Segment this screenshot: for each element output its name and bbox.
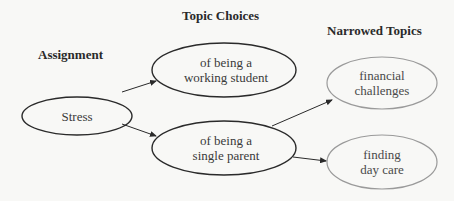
node-single-parent-label: of being a single parent bbox=[193, 133, 260, 163]
node-finding-day-care-line1: finding bbox=[360, 147, 404, 162]
node-financial-challenges-line1: financial bbox=[355, 68, 410, 83]
heading-narrowed-topics: Narrowed Topics bbox=[327, 23, 422, 39]
node-financial-challenges-line2: challenges bbox=[355, 83, 410, 98]
node-working-student-label: of being a working student bbox=[184, 55, 268, 85]
edge-stress-to-single-parent bbox=[122, 124, 156, 136]
node-finding-day-care-label: finding day care bbox=[360, 147, 404, 177]
node-working-student-line1: of being a bbox=[184, 55, 268, 70]
node-finding-day-care-line2: day care bbox=[360, 162, 404, 177]
edge-stress-to-working-student bbox=[122, 81, 156, 92]
node-working-student-line2: working student bbox=[184, 70, 268, 85]
node-stress-label: Stress bbox=[61, 109, 92, 124]
edge-single-parent-to-financial bbox=[272, 100, 332, 126]
node-stress-line1: Stress bbox=[61, 109, 92, 124]
heading-assignment: Assignment bbox=[38, 47, 103, 63]
node-single-parent-line2: single parent bbox=[193, 148, 260, 163]
node-financial-challenges-label: financial challenges bbox=[355, 68, 410, 98]
node-single-parent-line1: of being a bbox=[193, 133, 260, 148]
edge-single-parent-to-day-care bbox=[293, 157, 326, 161]
heading-topic-choices: Topic Choices bbox=[182, 8, 259, 24]
